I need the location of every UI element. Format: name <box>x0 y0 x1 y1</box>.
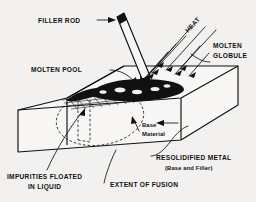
workpiece-block <box>18 66 238 152</box>
label-molten-pool: MOLTEN POOL <box>31 66 82 73</box>
pool-highlight-a <box>115 88 126 93</box>
label-molten-globule-line1: MOLTEN <box>213 42 242 49</box>
pool-highlight-b <box>132 90 142 94</box>
pool-highlight-c <box>151 87 160 91</box>
leader-filler-rod <box>97 17 116 23</box>
label-base-material-line1: Base <box>142 122 157 128</box>
label-resolidified-metal: RESOLIDIFIED METAL <box>156 154 231 161</box>
pool-highlight-d <box>99 90 106 94</box>
label-base-material-line2: Material <box>142 131 165 137</box>
pool-highlight-e <box>164 84 171 87</box>
label-molten-globule-line2: GLOBULE <box>213 52 248 59</box>
diagram-canvas: FILLER ROD HEAT MOLTEN GLOBULE MOLTEN PO… <box>0 0 256 202</box>
label-impurities-line1: IMPURITIES FLOATED <box>7 173 82 180</box>
label-extent-of-fusion: EXTENT OF FUSION <box>110 181 178 188</box>
welding-diagram-figure: FILLER ROD HEAT MOLTEN GLOBULE MOLTEN PO… <box>0 0 256 202</box>
leader-extent-of-fusion <box>104 150 116 183</box>
label-filler-rod: FILLER ROD <box>38 17 80 24</box>
label-heat: HEAT <box>184 16 201 34</box>
label-resolidified-metal-sub: (Base and Filler) <box>165 165 213 171</box>
label-impurities-line2: IN LIQUID <box>28 183 61 191</box>
